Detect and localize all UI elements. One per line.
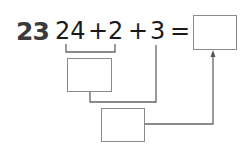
equals-sign: = [170, 19, 190, 43]
term-3: 3 [150, 19, 165, 43]
term-24: 24 [55, 19, 86, 43]
second-step-box[interactable] [101, 108, 145, 142]
arrow-up-icon [211, 50, 216, 57]
term-2: 2 [108, 19, 123, 43]
plus-sign-2: + [128, 19, 148, 43]
plus-sign-1: + [88, 19, 108, 43]
problem-number: 23 [16, 19, 49, 44]
partial-sum-box[interactable] [67, 58, 112, 92]
answer-box[interactable] [193, 15, 237, 50]
